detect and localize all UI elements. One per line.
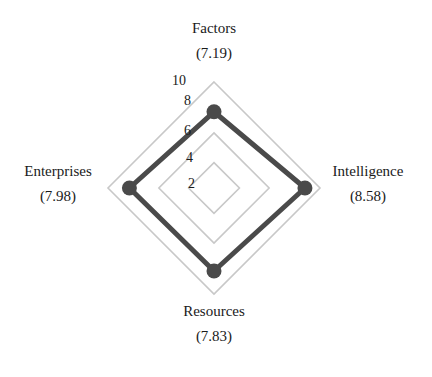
axis-value: (7.83) [164, 328, 264, 345]
tick-label-2: 2 [188, 177, 195, 191]
data-point-marker [122, 181, 137, 196]
axis-value: (7.19) [164, 45, 264, 62]
grid-ring [189, 163, 240, 214]
axis-name: Enterprises [8, 163, 108, 180]
tick-label-6: 6 [184, 124, 191, 138]
tick-label-8: 8 [184, 94, 191, 108]
axis-label-intelligence: Intelligence (8.58) [318, 163, 418, 205]
axis-value: (7.98) [8, 188, 108, 205]
tick-label-10: 10 [172, 74, 186, 88]
axis-label-enterprises: Enterprises (7.98) [8, 163, 108, 205]
data-point-marker [207, 104, 222, 119]
axis-label-factors: Factors (7.19) [164, 20, 264, 62]
axis-value: (8.58) [318, 188, 418, 205]
axis-label-resources: Resources (7.83) [164, 303, 264, 345]
axis-name: Resources [164, 303, 264, 320]
tick-label-4: 4 [186, 151, 193, 165]
axis-name: Intelligence [318, 163, 418, 180]
data-point-marker [207, 263, 222, 278]
data-point-marker [297, 181, 312, 196]
axis-name: Factors [164, 20, 264, 37]
radar-series [122, 104, 313, 278]
